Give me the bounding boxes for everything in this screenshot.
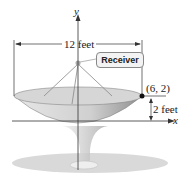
depth-label: 2 feet xyxy=(153,104,178,115)
point-label: (6, 2) xyxy=(146,83,170,94)
stand-base xyxy=(70,161,98,169)
receiver-label: Receiver xyxy=(96,52,144,68)
x-axis-label: x xyxy=(173,115,178,126)
y-axis-label: y xyxy=(74,6,79,17)
width-label: 12 feet xyxy=(64,39,94,50)
point-6-2 xyxy=(140,94,145,99)
